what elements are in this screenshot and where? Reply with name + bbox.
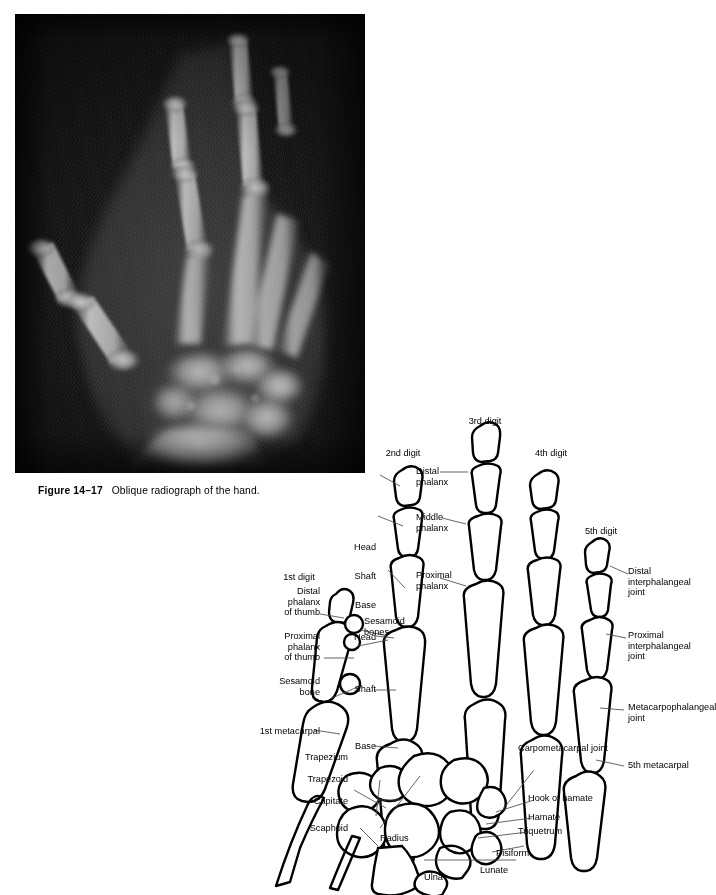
radiograph-figure [15,14,365,473]
label-hook-of-hamate: Hook of hamate [528,793,593,804]
label-5th-metacarpal: 5th metacarpal [628,760,689,771]
label-distal-interphalangeal-joint: Distal interphalangeal joint [628,566,691,598]
label-trapezium: Trapezium [264,752,348,763]
label-phalanx-head: Head [320,542,376,553]
label-middle-phalanx: Middle phalanx [416,512,448,533]
label-hamate: Hamate [528,812,560,823]
hook-of-hamate-outline [477,787,506,818]
label-triquetrum: Triquetrum [518,826,562,837]
label-sesamoid-bone: Sesamoid bone [244,676,320,697]
label-metacarpophalangeal-joint: Metacarpophalangeal joint [628,702,716,723]
label-proximal-interphalangeal-joint: Proximal interphalangeal joint [628,630,691,662]
hand-radiograph-image [15,14,365,473]
label-lunate: Lunate [480,865,508,876]
label-5th-digit: 5th digit [572,526,630,537]
label-distal-phalanx: Distal phalanx [416,466,448,487]
label-radius: Radius [380,833,409,844]
label-scaphoid: Scaphoid [264,823,348,834]
label-capitate: Capitate [264,796,348,807]
label-1st-metacarpal: 1st metacarpal [234,726,320,737]
film-vignette [15,14,365,473]
label-4th-digit: 4th digit [522,448,580,459]
label-phalanx-shaft: Shaft [320,571,376,582]
label-proximal-phalanx-of-thumb: Proximal phalanx of thumb [230,631,320,663]
label-metacarpal-base: Base [320,741,376,752]
label-distal-phalanx-of-thumb: Distal phalanx of thumb [236,586,320,618]
label-ulna: Ulna [424,872,443,883]
label-trapezoid: Trapezoid [264,774,348,785]
label-metacarpal-shaft: Shaft [320,684,376,695]
label-carpometacarpal-joint: Carpometacarpal joint [518,743,608,754]
label-phalanx-base: Base [320,600,376,611]
figure-number: Figure 14–17 [38,485,103,496]
label-pisiform: Pisiform [496,848,529,859]
label-2nd-digit: 2nd digit [372,448,434,459]
hand-skeleton-diagram: 2nd digit 3rd digit 4th digit 5th digit … [228,408,694,895]
label-sesamoid-bones: Sesamoid bones [364,616,405,637]
label-3rd-digit: 3rd digit [456,416,514,427]
label-proximal-phalanx: Proximal phalanx [416,570,452,591]
